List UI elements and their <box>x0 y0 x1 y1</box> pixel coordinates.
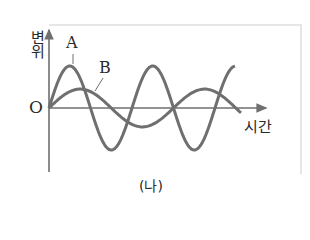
label-b-pointer <box>95 78 103 91</box>
origin-label: O <box>29 99 43 116</box>
curve-b-label: B <box>99 60 111 76</box>
figure-caption: (나) <box>139 179 163 193</box>
curve-a-label: A <box>66 35 78 51</box>
y-axis-label: 변위 <box>27 30 43 58</box>
x-axis-label: 시간 <box>244 120 272 135</box>
